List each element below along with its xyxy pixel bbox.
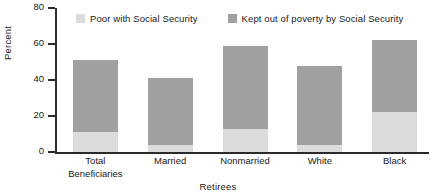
bar-segment-kept-out-of-poverty: [148, 78, 193, 145]
y-axis-tick-label: 80: [14, 0, 44, 13]
x-axis-label: Married: [133, 155, 208, 168]
bar-segment-poor-with-social-security: [148, 145, 193, 152]
bar-segment-poor-with-social-security: [223, 129, 268, 152]
bar-segment-kept-out-of-poverty: [372, 40, 417, 112]
y-axis-tick-label: 60: [14, 36, 44, 49]
bar-chart: Poor with Social Security Kept out of po…: [0, 0, 436, 195]
bar-group: [148, 78, 193, 152]
bar-group: [297, 66, 342, 152]
bar-segment-poor-with-social-security: [372, 112, 417, 152]
y-axis-tick: 60: [48, 43, 55, 44]
x-axis-label: White: [282, 155, 357, 168]
y-axis-tick-label: 40: [14, 72, 44, 85]
y-axis-tick-label: 0: [14, 144, 44, 157]
plot-area: 020406080: [55, 8, 429, 152]
bar-segment-poor-with-social-security: [73, 132, 118, 152]
y-axis-tick-label: 20: [14, 108, 44, 121]
bar-segment-kept-out-of-poverty: [223, 46, 268, 129]
x-axis-label: Nonmarried: [208, 155, 283, 168]
y-axis-tick: 0: [48, 151, 55, 152]
bars-layer: [55, 8, 429, 152]
x-axis-label: Total Beneficiaries: [58, 155, 133, 180]
bar-segment-poor-with-social-security: [297, 145, 342, 152]
x-axis-title: Retirees: [0, 181, 436, 192]
bar-segment-kept-out-of-poverty: [297, 66, 342, 145]
bar-segment-kept-out-of-poverty: [73, 60, 118, 132]
bar-group: [372, 40, 417, 152]
x-axis-line: [55, 152, 429, 154]
y-axis-tick: 40: [48, 79, 55, 80]
y-axis-title: Percent: [2, 26, 13, 60]
x-axis-category-labels: Total BeneficiariesMarriedNonmarriedWhit…: [55, 155, 429, 181]
x-axis-label: Black: [357, 155, 432, 168]
y-axis-tick: 80: [48, 7, 55, 8]
bar-group: [223, 46, 268, 152]
bar-group: [73, 60, 118, 152]
y-axis-tick: 20: [48, 115, 55, 116]
